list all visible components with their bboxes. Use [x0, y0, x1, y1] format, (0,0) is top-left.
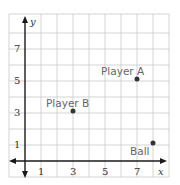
x-tick-5: 5: [102, 166, 108, 177]
point-player-b: [71, 109, 76, 114]
x-axis-label: x: [158, 166, 164, 177]
x-tick-3: 3: [70, 166, 76, 177]
label-ball: Ball: [130, 145, 149, 157]
point-ball: [151, 141, 156, 146]
x-axis: [9, 158, 167, 164]
x-tick-7: 7: [134, 166, 140, 177]
y-tick-5: 5: [14, 75, 20, 86]
coordinate-plane: y x 1 3 5 7 7 5 3 1 Player A Player B Ba…: [0, 0, 180, 185]
label-player-b: Player B: [46, 97, 89, 109]
point-player-a: [135, 77, 140, 82]
y-tick-7: 7: [14, 43, 20, 54]
y-tick-3: 3: [14, 107, 20, 118]
y-axis-label: y: [29, 16, 36, 27]
x-axis-arrow-right-icon: [160, 158, 167, 164]
x-axis-arrow-left-icon: [9, 158, 16, 164]
label-player-a: Player A: [101, 65, 145, 77]
y-axis-arrow-up-icon: [22, 16, 28, 23]
y-tick-1: 1: [14, 139, 20, 150]
x-tick-1: 1: [38, 166, 44, 177]
